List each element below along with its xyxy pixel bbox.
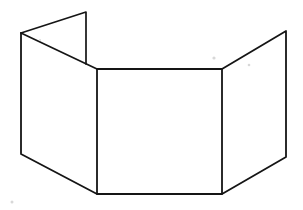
paper-speck xyxy=(212,56,215,59)
figure-canvas xyxy=(0,0,303,210)
paper-speck xyxy=(11,201,14,204)
paper-speck xyxy=(39,39,41,41)
right-panel-face xyxy=(222,31,286,194)
paper-speck xyxy=(248,64,251,67)
line-drawing-svg xyxy=(0,0,303,210)
center-panel-face xyxy=(97,69,222,194)
